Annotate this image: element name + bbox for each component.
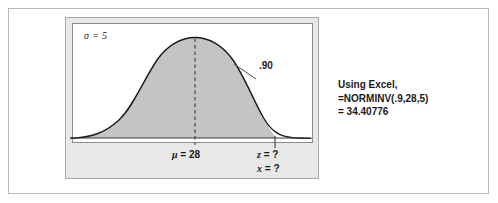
excel-note-line-3: = 34.40776 (338, 105, 428, 119)
mu-symbol: μ (172, 149, 178, 160)
excel-note-line-1: Using Excel, (338, 78, 428, 92)
x-value-text: = ? (265, 163, 280, 174)
z-symbol: z (257, 149, 261, 160)
area-probability-text: .90 (259, 60, 273, 71)
excel-note-line-2: =NORMINV(.9,28,5) (338, 92, 428, 106)
x-symbol: x (257, 163, 262, 174)
excel-note: Using Excel, =NORMINV(.9,28,5) = 34.4077… (338, 78, 428, 119)
shaded-area (73, 38, 275, 139)
z-value-text: = ? (264, 149, 279, 160)
sigma-label: σ = 5 (84, 30, 107, 41)
z-axis-label: z = ? (257, 149, 278, 160)
x-axis-label: x = ? (257, 163, 280, 174)
figure-page: σ = 5 .90 μ = 28 z = ? x = ? Using Excel… (0, 0, 498, 203)
mu-value-text: = 28 (180, 149, 200, 160)
mean-axis-label: μ = 28 (172, 149, 200, 160)
sigma-label-text: σ = 5 (84, 30, 107, 41)
area-probability-label: .90 (259, 60, 273, 71)
